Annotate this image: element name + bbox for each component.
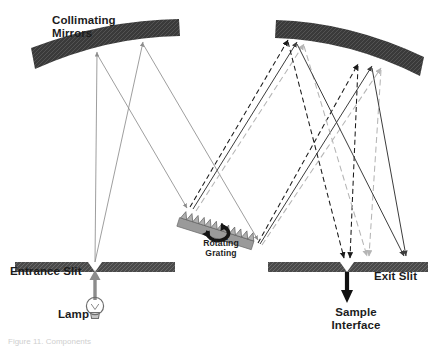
figure-caption: Figure 11. Components — [8, 337, 91, 346]
grating-line-2: Grating — [192, 249, 250, 259]
beam-entrance-to-left-mirror — [95, 42, 143, 262]
beam-grating-to-right-mirror — [190, 40, 381, 245]
beam-right-mirror-to-exit — [288, 42, 406, 258]
collimating-mirror-right — [275, 20, 424, 76]
collimating-line-2: Mirrors — [52, 27, 116, 40]
lamp-source-arrow — [90, 270, 101, 300]
label-collimating-mirrors: Collimating Mirrors — [52, 14, 116, 40]
label-lamp: Lamp — [58, 308, 89, 321]
label-entrance-slit: Entrance Slit — [10, 265, 82, 278]
label-rotating-grating: Rotating Grating — [192, 239, 250, 258]
sample-interface-arrow — [341, 272, 353, 303]
label-exit-slit: Exit Slit — [374, 270, 417, 283]
label-sample-interface: Sample Interface — [318, 306, 394, 332]
sample-line-1: Sample — [318, 306, 394, 319]
collimating-line-1: Collimating — [52, 14, 116, 27]
sample-line-2: Interface — [318, 319, 394, 332]
optical-diagram — [0, 0, 441, 349]
figure-canvas: Collimating Mirrors Entrance Slit Exit S… — [0, 0, 441, 349]
